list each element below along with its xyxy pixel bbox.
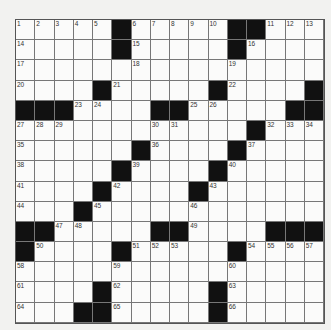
crossword-cell[interactable]: 22	[228, 81, 247, 101]
crossword-cell[interactable]: 6	[132, 20, 151, 40]
crossword-cell[interactable]	[247, 101, 266, 121]
crossword-cell[interactable]: 53	[170, 242, 189, 262]
crossword-cell[interactable]	[305, 141, 324, 161]
crossword-cell[interactable]: 65	[112, 303, 131, 323]
crossword-cell[interactable]: 49	[189, 222, 208, 242]
crossword-cell[interactable]	[132, 303, 151, 323]
crossword-cell[interactable]	[151, 161, 170, 181]
crossword-cell[interactable]	[74, 282, 93, 302]
crossword-cell[interactable]	[247, 282, 266, 302]
crossword-cell[interactable]	[266, 282, 285, 302]
crossword-cell[interactable]: 28	[35, 121, 54, 141]
crossword-cell[interactable]	[305, 161, 324, 181]
crossword-cell[interactable]: 12	[286, 20, 305, 40]
crossword-cell[interactable]	[74, 121, 93, 141]
crossword-cell[interactable]: 26	[209, 101, 228, 121]
crossword-cell[interactable]	[132, 202, 151, 222]
crossword-cell[interactable]	[228, 222, 247, 242]
crossword-cell[interactable]	[74, 161, 93, 181]
crossword-cell[interactable]	[170, 141, 189, 161]
crossword-cell[interactable]: 36	[151, 141, 170, 161]
crossword-cell[interactable]: 56	[286, 242, 305, 262]
crossword-cell[interactable]	[228, 121, 247, 141]
crossword-cell[interactable]	[112, 101, 131, 121]
crossword-cell[interactable]	[151, 303, 170, 323]
crossword-cell[interactable]: 58	[16, 262, 35, 282]
crossword-cell[interactable]	[93, 262, 112, 282]
crossword-cell[interactable]: 43	[209, 182, 228, 202]
crossword-cell[interactable]	[170, 81, 189, 101]
crossword-cell[interactable]: 38	[16, 161, 35, 181]
crossword-cell[interactable]	[151, 40, 170, 60]
crossword-cell[interactable]: 19	[228, 60, 247, 80]
crossword-cell[interactable]	[132, 101, 151, 121]
crossword-cell[interactable]	[266, 182, 285, 202]
crossword-cell[interactable]	[305, 40, 324, 60]
crossword-cell[interactable]: 35	[16, 141, 35, 161]
crossword-cell[interactable]	[35, 40, 54, 60]
crossword-cell[interactable]: 41	[16, 182, 35, 202]
crossword-cell[interactable]	[55, 262, 74, 282]
crossword-cell[interactable]	[170, 202, 189, 222]
crossword-cell[interactable]	[132, 121, 151, 141]
crossword-cell[interactable]	[170, 282, 189, 302]
crossword-cell[interactable]	[35, 303, 54, 323]
crossword-cell[interactable]	[266, 40, 285, 60]
crossword-cell[interactable]: 31	[170, 121, 189, 141]
crossword-cell[interactable]	[209, 222, 228, 242]
crossword-cell[interactable]	[93, 60, 112, 80]
crossword-cell[interactable]	[112, 121, 131, 141]
crossword-cell[interactable]: 1	[16, 20, 35, 40]
crossword-cell[interactable]	[305, 282, 324, 302]
crossword-cell[interactable]: 45	[93, 202, 112, 222]
crossword-cell[interactable]	[247, 60, 266, 80]
crossword-cell[interactable]	[35, 81, 54, 101]
crossword-cell[interactable]: 37	[247, 141, 266, 161]
crossword-cell[interactable]: 59	[112, 262, 131, 282]
crossword-cell[interactable]: 21	[112, 81, 131, 101]
crossword-cell[interactable]	[286, 202, 305, 222]
crossword-cell[interactable]	[55, 282, 74, 302]
crossword-cell[interactable]	[170, 303, 189, 323]
crossword-cell[interactable]: 51	[132, 242, 151, 262]
crossword-cell[interactable]: 54	[247, 242, 266, 262]
crossword-cell[interactable]	[55, 60, 74, 80]
crossword-cell[interactable]	[189, 242, 208, 262]
crossword-cell[interactable]	[189, 303, 208, 323]
crossword-cell[interactable]	[132, 81, 151, 101]
crossword-cell[interactable]	[247, 81, 266, 101]
crossword-cell[interactable]	[286, 303, 305, 323]
crossword-cell[interactable]: 46	[189, 202, 208, 222]
crossword-cell[interactable]: 47	[55, 222, 74, 242]
crossword-cell[interactable]	[112, 222, 131, 242]
crossword-cell[interactable]: 66	[228, 303, 247, 323]
crossword-cell[interactable]	[286, 40, 305, 60]
crossword-cell[interactable]: 20	[16, 81, 35, 101]
crossword-cell[interactable]	[286, 161, 305, 181]
crossword-cell[interactable]: 44	[16, 202, 35, 222]
crossword-cell[interactable]	[247, 161, 266, 181]
crossword-cell[interactable]	[35, 182, 54, 202]
crossword-cell[interactable]: 7	[151, 20, 170, 40]
crossword-cell[interactable]: 14	[16, 40, 35, 60]
crossword-cell[interactable]	[132, 222, 151, 242]
crossword-cell[interactable]: 42	[112, 182, 131, 202]
crossword-cell[interactable]	[151, 202, 170, 222]
crossword-cell[interactable]	[170, 161, 189, 181]
crossword-cell[interactable]: 32	[266, 121, 285, 141]
crossword-cell[interactable]: 39	[132, 161, 151, 181]
crossword-cell[interactable]	[209, 202, 228, 222]
crossword-cell[interactable]	[170, 262, 189, 282]
crossword-cell[interactable]: 64	[16, 303, 35, 323]
crossword-cell[interactable]	[286, 141, 305, 161]
crossword-cell[interactable]	[35, 161, 54, 181]
crossword-cell[interactable]	[55, 81, 74, 101]
crossword-cell[interactable]	[35, 262, 54, 282]
crossword-cell[interactable]	[286, 60, 305, 80]
crossword-cell[interactable]: 52	[151, 242, 170, 262]
crossword-cell[interactable]	[189, 282, 208, 302]
crossword-cell[interactable]	[55, 182, 74, 202]
crossword-cell[interactable]: 15	[132, 40, 151, 60]
crossword-cell[interactable]: 30	[151, 121, 170, 141]
crossword-cell[interactable]	[132, 262, 151, 282]
